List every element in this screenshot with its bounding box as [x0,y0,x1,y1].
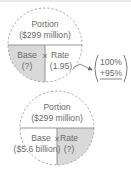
callout-line-2: +95% [100,68,123,78]
rate-label: Rate [51,50,69,60]
left-paren-icon [95,55,98,82]
base-label: Base [31,133,51,143]
portion-label: Portion [43,102,70,112]
base-value: (?) [22,61,33,71]
diagram-find-rate: Portion ($299 million) Base ($5.6 billio… [14,91,94,168]
diagram-find-base: Portion ($299 million) Base (?) × Rate (… [8,8,127,85]
portion-value: ($299 million) [19,30,71,40]
portion-label: Portion [31,19,58,29]
rate-callout: 100% +95% [95,55,127,82]
times-operator: × [54,134,59,144]
times-operator: × [42,51,47,61]
rate-value: (1.95) [50,61,73,71]
base-value: ($5.6 billion) [14,144,61,154]
rate-label: Rate [60,133,78,143]
portion-formula-diagrams: Portion ($299 million) Base (?) × Rate (… [0,0,131,172]
callout-line-1: 100% [100,57,122,67]
rate-value: (?) [64,144,75,154]
right-paren-icon [124,55,127,82]
base-label: Base [17,50,37,60]
portion-value: ($299 million) [31,113,83,123]
